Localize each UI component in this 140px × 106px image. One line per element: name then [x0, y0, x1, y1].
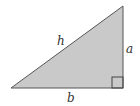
triangle-shape	[11, 6, 123, 88]
right-triangle-diagram: h a b	[0, 0, 140, 106]
horizontal-leg-label: b	[67, 91, 75, 105]
hypotenuse-label: h	[57, 34, 65, 48]
vertical-leg-label: a	[126, 42, 133, 56]
